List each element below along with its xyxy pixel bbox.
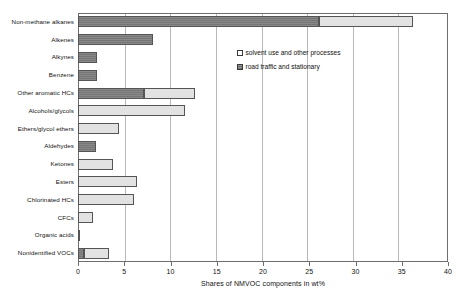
- y-axis-label: Non-methane alkanes: [0, 18, 74, 25]
- y-axis-label: Ethers/glycol ethers: [0, 125, 74, 132]
- x-axis-tick: [356, 262, 357, 266]
- y-axis-category-labels: Non-methane alkanesAlkenesAlkynesBenzene…: [0, 13, 74, 262]
- bar-segment-road-traffic: [78, 52, 97, 63]
- bar-segment-road-traffic: [78, 88, 144, 99]
- bar-row: [78, 159, 448, 170]
- x-axis-tick-label: 10: [158, 267, 184, 276]
- bar-segment-solvent-use: [84, 248, 110, 259]
- y-axis-label: Chlorinated HCs: [0, 196, 74, 203]
- y-axis-label: Benzene: [0, 71, 74, 78]
- x-axis-tick-label: 25: [296, 267, 322, 276]
- x-axis-tick: [217, 262, 218, 266]
- bar-row: [78, 230, 448, 241]
- legend-label: solvent use and other processes: [246, 49, 341, 57]
- bar-row: [78, 194, 448, 205]
- x-axis-tick-label: 30: [343, 267, 369, 276]
- y-axis-label: CFCs: [0, 214, 74, 221]
- bar-segment-solvent-use: [78, 105, 185, 116]
- legend-item-road-traffic: road traffic and stationary: [237, 63, 340, 71]
- x-axis-tick-label: 40: [435, 267, 457, 276]
- legend-swatch-icon: [237, 50, 243, 56]
- bar-row: [78, 248, 448, 259]
- bar-segment-solvent-use: [319, 16, 413, 27]
- y-axis-label: Other aromatic HCs: [0, 89, 74, 96]
- bar-segment-solvent-use: [78, 194, 134, 205]
- x-axis-tick: [402, 262, 403, 266]
- x-axis-tick: [263, 262, 264, 266]
- y-axis-label: Alcohols/glycols: [0, 107, 74, 114]
- bar-segment-road-traffic: [78, 141, 96, 152]
- bar-segment-road-traffic: [78, 230, 80, 241]
- bar-segment-solvent-use: [144, 88, 195, 99]
- bar-row: [78, 88, 448, 99]
- bar-row: [78, 212, 448, 223]
- y-axis-label: Aldehydes: [0, 142, 74, 149]
- bar-segment-solvent-use: [78, 123, 119, 134]
- x-axis-tick: [309, 262, 310, 266]
- bar-row: [78, 16, 448, 27]
- x-axis-tick: [171, 262, 172, 266]
- x-axis-tick: [448, 262, 449, 266]
- bar-segment-road-traffic: [78, 16, 319, 27]
- x-axis-tick: [78, 262, 79, 266]
- y-axis-label: Ketones: [0, 160, 74, 167]
- bar-row: [78, 141, 448, 152]
- legend-item-solvent: solvent use and other processes: [237, 49, 340, 57]
- bar-segment-solvent-use: [78, 212, 93, 223]
- x-axis-tick-label: 0: [65, 267, 91, 276]
- bar-row: [78, 34, 448, 45]
- x-axis-tick-label: 35: [389, 267, 415, 276]
- bar-row: [78, 176, 448, 187]
- x-axis-title: Shares of NMVOC components in wt%: [78, 279, 448, 288]
- legend-swatch-icon: [237, 64, 243, 70]
- y-axis-label: Alkynes: [0, 53, 74, 60]
- x-axis-tick-label: 15: [204, 267, 230, 276]
- bar-row: [78, 105, 448, 116]
- y-axis-label: Esters: [0, 178, 74, 185]
- bar-segment-solvent-use: [78, 176, 137, 187]
- x-axis-tick-label: 20: [250, 267, 276, 276]
- bar-row: [78, 123, 448, 134]
- bar-segment-road-traffic: [78, 70, 97, 81]
- bar-segment-road-traffic: [78, 34, 153, 45]
- legend-label: road traffic and stationary: [246, 63, 320, 71]
- legend: solvent use and other processes road tra…: [237, 49, 340, 77]
- bar-segment-solvent-use: [78, 159, 113, 170]
- x-axis-tick-label: 5: [111, 267, 137, 276]
- x-axis-tick: [124, 262, 125, 266]
- y-axis-label: Organic acids: [0, 231, 74, 238]
- y-axis-label: Alkenes: [0, 36, 74, 43]
- y-axis-label: Nonidentified VOCs: [0, 249, 74, 256]
